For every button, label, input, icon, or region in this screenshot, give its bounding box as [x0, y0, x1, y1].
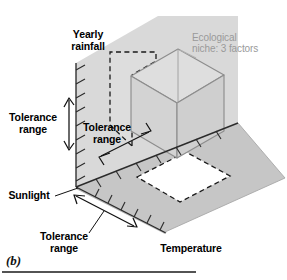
- tolerance-temperature-line2: range: [50, 242, 78, 254]
- tolerance-sunlight-line1: Tolerance: [83, 121, 131, 133]
- tolerance-temperature-line1: Tolerance: [40, 230, 88, 242]
- axis-label-yearly-rainfall: Yearly rainfall: [60, 29, 116, 53]
- axis-label-sunlight: Sunlight: [3, 190, 55, 202]
- tolerance-rainfall-line2: range: [19, 123, 47, 135]
- tolerance-range-rainfall-label: Tolerance range: [2, 112, 64, 136]
- tolerance-rainfall-line1: Tolerance: [9, 111, 57, 123]
- niche-callout: Ecological niche: 3 factors: [192, 32, 284, 54]
- niche-callout-line2: niche: 3 factors: [192, 43, 258, 54]
- yearly-rainfall-line2: rainfall: [71, 40, 105, 52]
- tolerance-range-sunlight-label: Tolerance range: [76, 122, 138, 146]
- yearly-rainfall-line1: Yearly: [73, 28, 103, 40]
- temperature-text: Temperature: [160, 242, 222, 254]
- niche-callout-line1: Ecological: [192, 32, 237, 43]
- ecological-niche-figure: Yearly rainfall Ecological niche: 3 fact…: [0, 0, 287, 280]
- tolerance-temperature-leader: [89, 211, 104, 233]
- tolerance-range-temperature-label: Tolerance range: [33, 231, 95, 255]
- tolerance-sunlight-line2: range: [93, 133, 121, 145]
- sunlight-text: Sunlight: [8, 189, 49, 201]
- tolerance-arrow-rainfall: [64, 98, 74, 150]
- axis-label-temperature: Temperature: [153, 243, 229, 255]
- panel-letter: (b): [6, 253, 21, 269]
